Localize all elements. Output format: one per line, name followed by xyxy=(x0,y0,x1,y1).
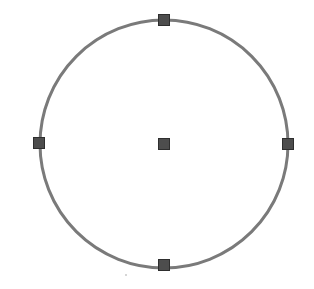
grip-quadrant-left[interactable] xyxy=(33,137,45,149)
artifact-speck xyxy=(125,274,127,276)
grip-center[interactable] xyxy=(158,138,170,150)
drawing-canvas[interactable] xyxy=(0,0,314,289)
grip-quadrant-top[interactable] xyxy=(158,14,170,26)
grip-quadrant-right[interactable] xyxy=(282,138,294,150)
circle-svg xyxy=(0,0,314,289)
grip-quadrant-bottom[interactable] xyxy=(158,259,170,271)
